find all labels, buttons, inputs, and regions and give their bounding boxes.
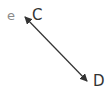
double-arrow-icon bbox=[0, 0, 111, 92]
